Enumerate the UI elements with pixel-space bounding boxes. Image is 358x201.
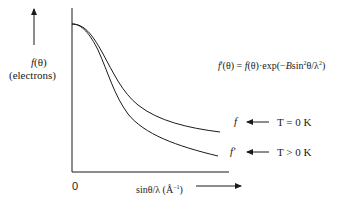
curve-f-prime — [72, 24, 218, 156]
diagram-canvas — [0, 0, 358, 201]
debye-waller-formula: f'(θ) = f(θ)·exp(−Bsin2θ/λ2) — [218, 57, 325, 72]
x-axis-label: sinθ/λ (Å−1) — [136, 181, 183, 196]
curve-f-condition: T = 0 K — [277, 116, 311, 128]
y-axis-unit: (electrons) — [9, 69, 56, 81]
curve-f-prime-label: f' — [230, 145, 235, 157]
y-axis-arg: (θ) — [34, 56, 47, 68]
curve-f — [72, 24, 220, 132]
curve-f-prime-condition: T > 0 K — [277, 146, 311, 158]
curve-f-label: f — [234, 115, 237, 127]
x-origin-label: 0 — [72, 180, 78, 192]
y-axis-label: f(θ) — [31, 56, 47, 68]
